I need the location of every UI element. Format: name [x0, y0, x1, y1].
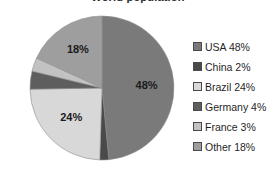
- chart-legend: USA 48% China 2% Brazil 24% Germany 4% F…: [193, 40, 276, 160]
- legend-swatch-china: [193, 62, 202, 71]
- legend-item-china[interactable]: China 2%: [193, 60, 276, 73]
- legend-label-germany: Germany 4%: [205, 101, 266, 113]
- legend-item-brazil[interactable]: Brazil 24%: [193, 80, 276, 93]
- legend-swatch-usa: [193, 42, 202, 51]
- pie-slice-label-other: 18%: [67, 43, 89, 55]
- legend-label-usa: USA 48%: [205, 41, 250, 53]
- pie-slice-brazil[interactable]: [30, 88, 102, 160]
- pie-svg: 48%2%24%4%3%18%: [22, 8, 182, 168]
- legend-swatch-other: [193, 142, 202, 151]
- legend-label-brazil: Brazil 24%: [205, 81, 255, 93]
- legend-swatch-brazil: [193, 82, 202, 91]
- legend-item-germany[interactable]: Germany 4%: [193, 100, 276, 113]
- pie-slice-label-usa: 48%: [136, 79, 158, 91]
- pie-chart-figure: World population 48%2%24%4%3%18% USA 48%…: [0, 0, 276, 184]
- pie-plot-area: 48%2%24%4%3%18%: [22, 8, 182, 168]
- legend-label-other: Other 18%: [205, 141, 255, 153]
- legend-item-france[interactable]: France 3%: [193, 120, 276, 133]
- legend-item-other[interactable]: Other 18%: [193, 140, 276, 153]
- chart-title: World population: [0, 0, 276, 3]
- legend-swatch-germany: [193, 102, 202, 111]
- legend-label-china: China 2%: [205, 61, 251, 73]
- pie-slice-label-brazil: 24%: [60, 111, 82, 123]
- legend-item-usa[interactable]: USA 48%: [193, 40, 276, 53]
- legend-swatch-france: [193, 122, 202, 131]
- legend-label-france: France 3%: [205, 121, 256, 133]
